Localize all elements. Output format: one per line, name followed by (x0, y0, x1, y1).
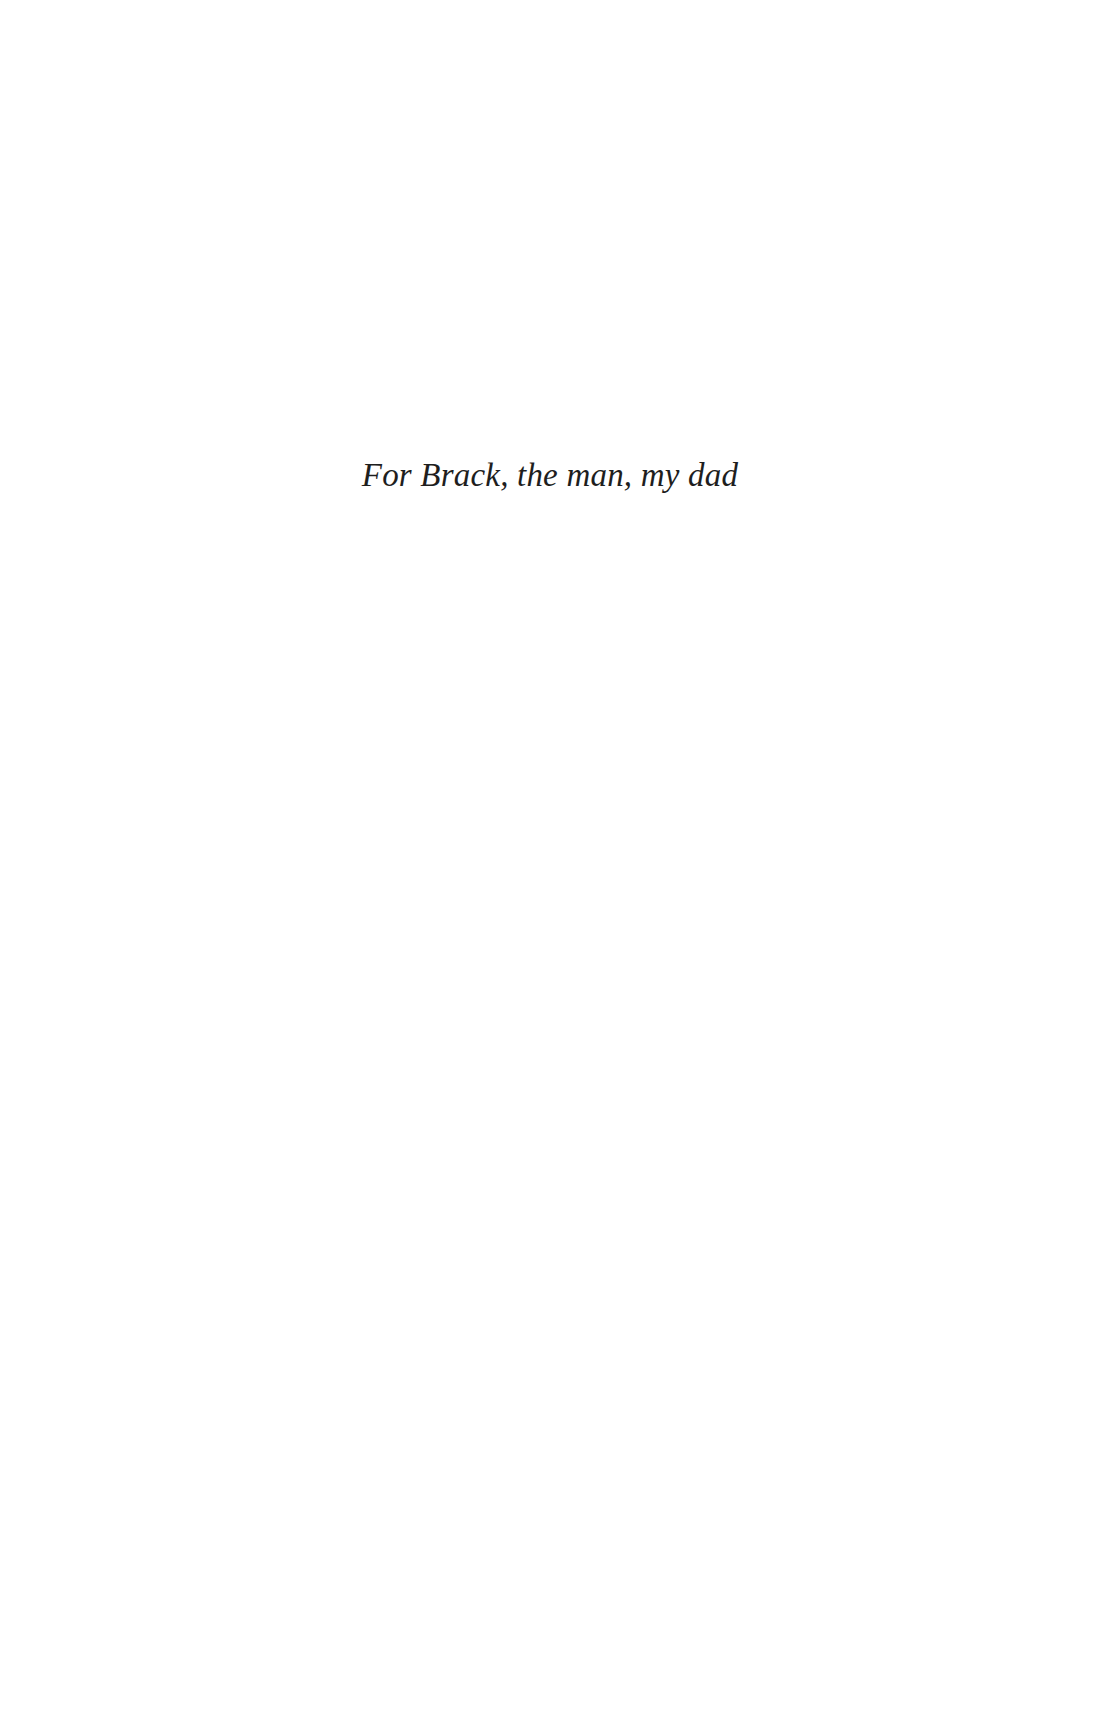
book-page: For Brack, the man, my dad (0, 0, 1100, 1728)
dedication-text: For Brack, the man, my dad (0, 453, 1100, 497)
